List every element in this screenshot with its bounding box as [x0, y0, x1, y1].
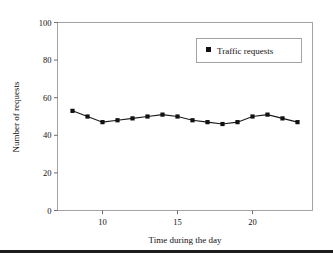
- data-point-marker: [295, 120, 299, 124]
- y-tick-label: 20: [43, 168, 52, 178]
- legend-label-traffic-requests: Traffic requests: [217, 46, 274, 56]
- y-tick-label: 80: [43, 55, 52, 65]
- x-tick-label: 10: [98, 217, 107, 227]
- chart-figure: 020406080100 101520 Traffic requests Tim…: [0, 0, 333, 262]
- x-axis-title: Time during the day: [149, 235, 222, 245]
- data-point-marker: [220, 122, 224, 126]
- data-point-marker: [70, 109, 74, 113]
- square-marker-icon: [206, 47, 211, 52]
- y-axis-title: Number of requests: [11, 81, 21, 152]
- data-point-marker: [205, 120, 209, 124]
- chart-legend: Traffic requests: [197, 39, 302, 63]
- traffic-requests-line-chart: 020406080100 101520 Traffic requests Tim…: [0, 0, 333, 262]
- data-point-marker: [100, 120, 104, 124]
- bottom-divider-rule: [0, 250, 333, 253]
- y-tick-label: 0: [47, 206, 51, 216]
- x-tick-label: 20: [248, 217, 257, 227]
- data-point-marker: [85, 114, 89, 118]
- data-point-marker: [265, 113, 269, 117]
- data-point-marker: [175, 114, 179, 118]
- y-tick-label: 60: [43, 93, 52, 103]
- data-point-marker: [160, 113, 164, 117]
- data-point-marker: [130, 116, 134, 120]
- y-tick-label: 40: [43, 130, 52, 140]
- data-point-marker: [115, 118, 119, 122]
- data-point-marker: [250, 114, 254, 118]
- y-tick-label: 100: [39, 18, 52, 28]
- data-point-marker: [235, 120, 239, 124]
- x-tick-label: 15: [173, 217, 182, 227]
- data-point-marker: [280, 116, 284, 120]
- data-point-marker: [145, 114, 149, 118]
- data-point-marker: [190, 118, 194, 122]
